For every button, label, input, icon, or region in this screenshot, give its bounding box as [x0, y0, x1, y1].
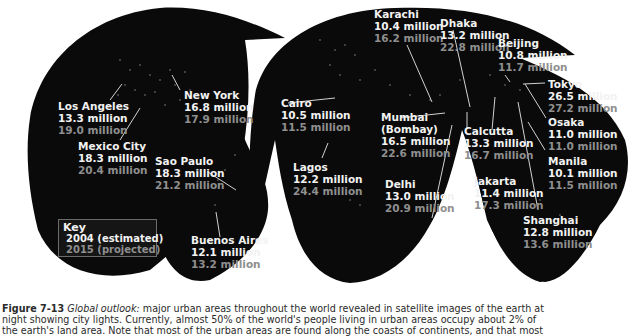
city-name: New York	[184, 89, 254, 101]
figure-caption: Figure 7-13 Global outlook: major urban …	[2, 303, 632, 336]
city-name-alt: (Bombay)	[381, 123, 451, 135]
value-2015: 19.0 million	[58, 124, 129, 136]
city-label-shanghai: Shanghai 12.8 million 13.6 million	[523, 214, 593, 250]
city-name: Cairo	[281, 97, 351, 109]
value-2004: 10.8 million	[498, 49, 568, 61]
city-label-delhi: Delhi 13.0 million 20.9 million	[385, 178, 455, 214]
city-label-mexico-city: Mexico City 18.3 million 20.4 million	[78, 140, 148, 176]
city-name: Sao Paulo	[155, 155, 225, 167]
value-2015: 20.9 million	[385, 202, 455, 214]
city-name: Mumbai	[381, 111, 451, 123]
city-name: Shanghai	[523, 214, 593, 226]
value-2004: 13.0 million	[385, 190, 455, 202]
value-2004: 10.4 million	[374, 20, 444, 32]
city-name: Mexico City	[78, 140, 148, 152]
value-2004: 18.3 million	[78, 152, 148, 164]
caption-line-1: Figure 7-13 Global outlook: major urban …	[2, 303, 632, 314]
city-name: Manila	[548, 155, 618, 167]
city-label-new-york: New York 16.8 million 17.9 million	[184, 89, 254, 125]
key-item-2004: 2004 (estimated)	[63, 233, 152, 244]
caption-lead: Global outlook:	[67, 303, 140, 314]
value-2004: 16.8 million	[184, 101, 254, 113]
value-2004: 12.1 million	[191, 246, 268, 258]
city-label-manila: Manila 10.1 million 11.5 million	[548, 155, 618, 191]
value-2015: 17.3 million	[474, 199, 544, 211]
key-title: Key	[63, 222, 152, 233]
city-name: Jakarta	[474, 175, 544, 187]
value-2015: 11.7 million	[498, 61, 568, 73]
caption-line-2: night showing city lights. Currently, al…	[2, 314, 632, 325]
value-2004: 10.1 million	[548, 167, 618, 179]
city-label-tokyo: Tokyo 26.5 million 27.2 million	[548, 78, 618, 114]
value-2015: 24.4 million	[293, 185, 363, 197]
city-name: Tokyo	[548, 78, 618, 90]
city-name: Lagos	[293, 161, 363, 173]
city-label-buenos-aires: Buenos Aires 12.1 million 13.2 million	[191, 234, 268, 270]
city-name: Dhaka	[440, 17, 510, 29]
key-item-2015: 2015 (projected)	[63, 244, 152, 255]
city-label-lagos: Lagos 12.2 million 24.4 million	[293, 161, 363, 197]
city-name: Buenos Aires	[191, 234, 268, 246]
city-label-karachi: Karachi 10.4 million 16.2 million	[374, 8, 444, 44]
value-2015: 17.9 million	[184, 113, 254, 125]
city-label-cairo: Cairo 10.5 million 11.5 million	[281, 97, 351, 133]
value-2004: 16.5 million	[381, 135, 451, 147]
figure-label: Figure 7-13	[2, 303, 64, 314]
value-2015: 11.5 million	[281, 121, 351, 133]
city-label-beijing: Beijing 10.8 million 11.7 million	[498, 37, 568, 73]
value-2015: 16.2 million	[374, 32, 444, 44]
value-2004: 12.8 million	[523, 226, 593, 238]
value-2004: 18.3 million	[155, 167, 225, 179]
city-name: Osaka	[548, 116, 618, 128]
value-2004: 13.3 million	[58, 112, 129, 124]
value-2004: 10.5 million	[281, 109, 351, 121]
value-2015: 11.0 million	[548, 140, 618, 152]
value-2004: 26.5 million	[548, 90, 618, 102]
city-name: Delhi	[385, 178, 455, 190]
city-name: Beijing	[498, 37, 568, 49]
caption-text-1: major urban areas throughout the world r…	[140, 303, 544, 314]
city-name: Los Angeles	[58, 100, 129, 112]
caption-line-3: the earth's land area. Note that most of…	[2, 325, 632, 336]
city-label-mumbai: Mumbai (Bombay) 16.5 million 22.6 millio…	[381, 111, 451, 159]
city-label-calcutta: Calcutta 13.3 million 16.7 million	[464, 125, 534, 161]
value-2004: 11.0 million	[548, 128, 618, 140]
value-2015: 27.2 million	[548, 102, 618, 114]
value-2015: 21.2 million	[155, 179, 225, 191]
value-2015: 13.6 million	[523, 238, 593, 250]
map-key: Key 2004 (estimated) 2015 (projected)	[58, 219, 157, 257]
city-label-sao-paulo: Sao Paulo 18.3 million 21.2 million	[155, 155, 225, 191]
value-2004: 12.2 million	[293, 173, 363, 185]
city-label-osaka: Osaka 11.0 million 11.0 million	[548, 116, 618, 152]
value-2015: 20.4 million	[78, 164, 148, 176]
value-2004: 11.4 million	[474, 187, 544, 199]
value-2015: 16.7 million	[464, 149, 534, 161]
value-2015: 11.5 million	[548, 179, 618, 191]
value-2004: 13.3 million	[464, 137, 534, 149]
city-name: Calcutta	[464, 125, 534, 137]
key-label-2004: 2004 (estimated)	[66, 233, 163, 244]
value-2015: 13.2 million	[191, 258, 268, 270]
value-2015: 22.6 million	[381, 147, 451, 159]
city-label-jakarta: Jakarta 11.4 million 17.3 million	[474, 175, 544, 211]
key-label-2015: 2015 (projected)	[66, 244, 160, 255]
city-label-los-angeles: Los Angeles 13.3 million 19.0 million	[58, 100, 129, 136]
city-name: Karachi	[374, 8, 444, 20]
